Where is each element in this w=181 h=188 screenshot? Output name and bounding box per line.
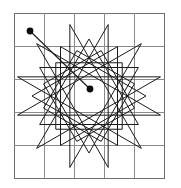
start-dot — [27, 28, 34, 35]
star-polygon-group — [18, 25, 161, 168]
star-polygon-12-5 — [18, 25, 161, 168]
figure-root — [0, 0, 181, 188]
inner-rosette-12-3 — [44, 51, 135, 142]
end-dot — [87, 86, 94, 93]
inner-rosette-12-4 — [32, 39, 146, 153]
geometry-figure — [0, 0, 181, 188]
